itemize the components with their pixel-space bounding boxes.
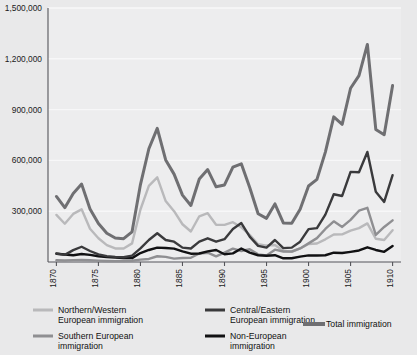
x-tick-label: 1910 — [385, 269, 395, 288]
x-tick-label: 1875 — [90, 269, 100, 288]
x-tick-label: 1895 — [259, 269, 269, 288]
legend-label: immigration — [230, 341, 275, 351]
y-tick-label: 300,000 — [12, 206, 43, 216]
y-tick-label: 1,500,000 — [5, 3, 43, 13]
legend-label: immigration — [58, 341, 103, 351]
x-tick-label: 1900 — [301, 269, 311, 288]
legend-label: Southern European — [58, 331, 134, 341]
legend-label: European immigration — [58, 315, 143, 325]
y-tick-label: 600,000 — [12, 155, 43, 165]
chart-figure: 300,000600,000900,0001,200,0001,500,0001… — [0, 0, 417, 355]
x-tick-label: 1905 — [343, 269, 353, 288]
legend-label: Central/Eastern — [230, 305, 291, 315]
immigration-line-chart: 300,000600,000900,0001,200,0001,500,0001… — [0, 0, 417, 355]
legend-label: Non-European — [230, 331, 287, 341]
y-tick-label: 900,000 — [12, 105, 43, 115]
x-tick-label: 1885 — [174, 269, 184, 288]
legend-label: Northern/Western — [58, 305, 127, 315]
x-tick-label: 1890 — [217, 269, 227, 288]
x-tick-label: 1870 — [48, 269, 58, 288]
y-tick-label: 1,200,000 — [5, 54, 43, 64]
legend-label: European immigration — [230, 315, 315, 325]
x-tick-label: 1880 — [132, 269, 142, 288]
legend-label: Total immigration — [326, 319, 392, 329]
